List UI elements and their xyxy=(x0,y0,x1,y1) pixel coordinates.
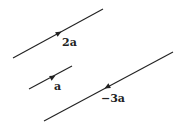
vector-2a: 2a xyxy=(13,9,103,58)
vector-label: 2a xyxy=(62,36,77,49)
vector-diagram: 2aa−3a xyxy=(0,0,180,128)
vector-label: −3a xyxy=(101,92,125,105)
vector-label: a xyxy=(54,80,61,93)
vector-a: a xyxy=(29,66,72,93)
vector-neg3a: −3a xyxy=(44,52,173,121)
